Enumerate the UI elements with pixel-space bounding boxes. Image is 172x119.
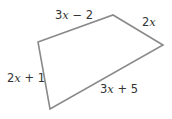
side-label-left: 2x + 1 [7, 73, 45, 85]
constant-term: + 5 [114, 82, 138, 96]
side-label-bottom: 3x + 5 [100, 84, 138, 96]
constant-term: + 1 [21, 71, 45, 85]
side-label-top: 3x − 2 [55, 10, 93, 22]
constant-term: − 2 [69, 8, 93, 22]
variable: x [149, 15, 156, 29]
side-label-right: 2x [142, 17, 156, 29]
